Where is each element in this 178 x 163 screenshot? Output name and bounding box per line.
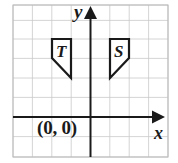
coordinate-plane-figure: T S y x (0, 0): [0, 0, 178, 163]
shape-s-label: S: [114, 43, 123, 60]
origin-label: (0, 0): [37, 118, 77, 137]
graph-canvas: [0, 0, 178, 163]
shape-t-label: T: [56, 43, 66, 60]
x-axis-label: x: [154, 124, 163, 142]
y-axis-label: y: [74, 2, 82, 21]
